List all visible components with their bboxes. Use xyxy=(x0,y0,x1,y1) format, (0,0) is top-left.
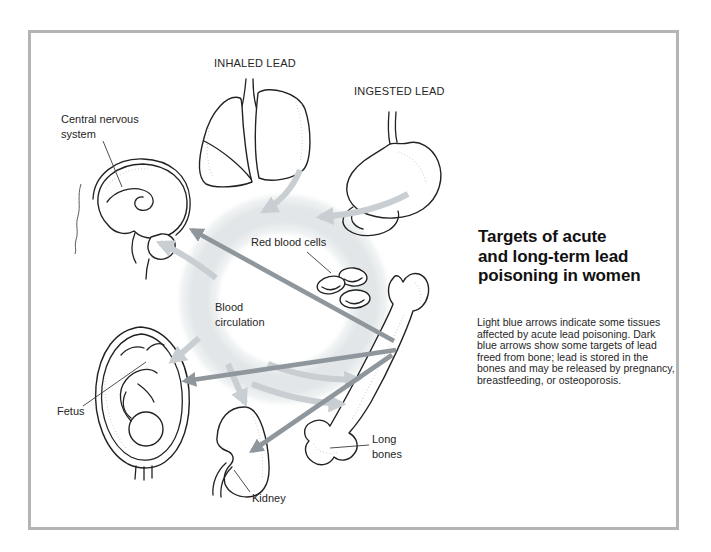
figure-title: Targets of acute and long-term lead pois… xyxy=(478,227,673,286)
label-fetus: Fetus xyxy=(57,405,85,419)
label-red-blood-cells: Red blood cells xyxy=(251,236,326,250)
brain-illustration xyxy=(75,159,190,279)
label-inhaled-lead: INHALED LEAD xyxy=(214,57,296,71)
pointer-red-blood-cells xyxy=(307,252,331,273)
kidney-illustration xyxy=(213,407,269,497)
figure-title-line2: and long-term lead xyxy=(478,247,673,267)
fetus-illustration xyxy=(96,327,190,480)
figure-title-line1: Targets of acute xyxy=(478,227,673,247)
label-kidney: Kidney xyxy=(252,492,286,506)
lungs-illustration xyxy=(199,79,310,187)
figure-caption: Light blue arrows indicate some tissues … xyxy=(477,317,675,387)
label-central-nervous-system: Central nervous system xyxy=(61,112,149,142)
lead-poisoning-figure: { "figure": { "title_lines": ["Targets o… xyxy=(0,0,711,552)
label-blood-circulation: Blood circulation xyxy=(215,300,293,330)
label-long-bones: Long bones xyxy=(372,432,422,462)
stomach-illustration xyxy=(343,112,441,236)
label-ingested-lead: INGESTED LEAD xyxy=(354,85,445,99)
figure-title-line3: poisoning in women xyxy=(478,266,673,286)
